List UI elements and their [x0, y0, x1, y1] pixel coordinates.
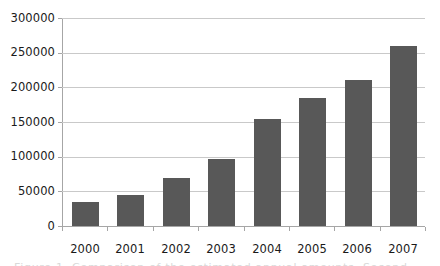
y-axis-label: 250000 [1, 47, 55, 59]
bar-2007 [390, 46, 417, 226]
y-axis-label: 100000 [1, 151, 55, 163]
x-axis-label-2006: 2006 [334, 243, 380, 255]
x-axis-label-2005: 2005 [289, 243, 335, 255]
gridline [62, 18, 425, 19]
gridline [62, 53, 425, 54]
figure-caption-clipped: Figure 1. Comparison of the estimated an… [14, 262, 426, 266]
x-axis-tick [380, 227, 381, 231]
y-axis-labels: 300000 250000 200000 150000 100000 50000… [0, 0, 55, 266]
x-axis-label-2001: 2001 [107, 243, 153, 255]
x-axis-label-2000: 2000 [62, 243, 108, 255]
x-axis-tick [289, 227, 290, 231]
bar-2000 [72, 202, 99, 226]
x-axis-tick [425, 227, 426, 231]
x-axis-label-2007: 2007 [380, 243, 426, 255]
bar-2004 [254, 119, 281, 227]
x-axis-tick [62, 227, 63, 231]
bar-2006 [345, 80, 372, 226]
bar-2005 [299, 98, 326, 226]
bar-2001 [117, 195, 144, 226]
bar-2002 [163, 178, 190, 226]
bar-chart-figure: 300000 250000 200000 150000 100000 50000… [0, 0, 440, 266]
x-axis-tick [153, 227, 154, 231]
x-axis-tick [198, 227, 199, 231]
x-axis-tick [334, 227, 335, 231]
y-axis-label: 150000 [1, 117, 55, 129]
y-axis-label: 200000 [1, 82, 55, 94]
x-axis-label-2003: 2003 [198, 243, 244, 255]
y-axis-label: 0 [1, 221, 55, 233]
x-axis-label-2002: 2002 [153, 243, 199, 255]
plot-area [62, 18, 425, 226]
bar-2003 [208, 159, 235, 226]
x-axis-label-2004: 2004 [244, 243, 290, 255]
y-axis-label: 300000 [1, 13, 55, 25]
x-axis-tick [107, 227, 108, 231]
x-axis-tick [244, 227, 245, 231]
y-axis-label: 50000 [1, 186, 55, 198]
